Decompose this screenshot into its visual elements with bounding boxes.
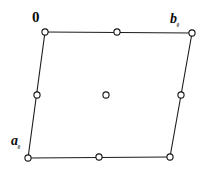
origin-corner-point xyxy=(42,29,48,35)
left-edge-midpoint-point xyxy=(34,92,40,98)
cell-edges xyxy=(28,32,192,158)
bottom-edge-midpoint-point xyxy=(96,154,102,160)
b-axis-label-subscript: ₀ xyxy=(177,18,180,27)
origin-label-base: 0 xyxy=(32,9,40,25)
origin-label: 0 xyxy=(32,9,39,26)
a-axis-label-subscript: ₀ xyxy=(18,140,21,149)
lattice-points xyxy=(25,29,195,161)
a-axis-label: a₀ xyxy=(11,132,20,149)
body-centre-point xyxy=(103,92,109,98)
right-edge-midpoint-point xyxy=(178,92,184,98)
unit-cell-figure: 0 b₀ a₀ xyxy=(0,0,203,170)
a-axis-label-base: a xyxy=(11,133,18,148)
b-axis-label: b₀ xyxy=(170,10,179,27)
b-corner-point xyxy=(189,30,195,36)
top-edge-midpoint-point xyxy=(114,29,120,35)
bottom-right-corner-point xyxy=(167,154,173,160)
a-corner-point xyxy=(25,155,31,161)
b-axis-label-base: b xyxy=(170,11,177,26)
